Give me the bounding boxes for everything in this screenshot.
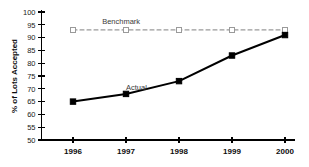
data-point-marker [70,99,75,104]
line-chart: 50556065707580859095100 1996199719981999… [0,0,309,167]
y-axis: 50556065707580859095100 [23,8,45,145]
data-point-marker [282,32,287,37]
y-axis-tick-label: 90 [27,33,35,42]
x-axis-tick-label: 1999 [223,147,241,156]
data-point-marker [70,27,75,32]
data-point-marker [229,27,234,32]
y-axis-tick-label: 55 [27,123,35,132]
plot-background [0,0,309,167]
x-axis-tick-label: 2000 [276,147,294,156]
y-axis-tick-label: 50 [27,136,35,145]
data-point-marker [176,27,181,32]
y-axis-tick-label: 70 [27,85,35,94]
y-axis-tick-label: 100 [23,8,36,17]
data-point-marker [176,78,181,83]
x-axis-tick-label: 1998 [170,147,188,156]
data-point-marker [282,27,287,32]
chart-container: 50556065707580859095100 1996199719981999… [0,0,309,167]
y-axis-tick-label: 60 [27,110,35,119]
series-label-benchmark: Benchmark [102,17,140,26]
y-axis-tick-label: 95 [27,21,35,30]
y-axis-title-text: % of Lots Accepted [10,39,19,113]
x-axis-tick-label: 1996 [64,147,82,156]
data-point-marker [123,91,128,96]
y-axis-tick-label: 85 [27,46,35,55]
series-label-actual: Actual [126,83,147,92]
y-axis-title: % of Lots Accepted [10,39,19,113]
y-axis-tick-label: 75 [27,72,35,81]
x-axis-tick-label: 1997 [117,147,135,156]
y-axis-tick-label: 80 [27,59,35,68]
data-point-marker [229,53,234,58]
y-axis-tick-label: 65 [27,97,35,106]
data-point-marker [123,27,128,32]
